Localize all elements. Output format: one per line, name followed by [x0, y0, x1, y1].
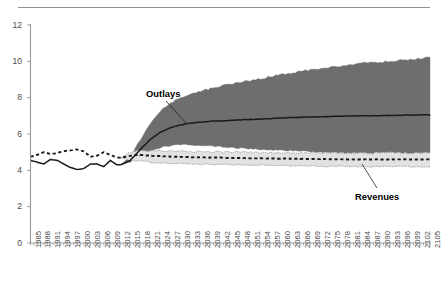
x-tick-label: 2078	[343, 231, 352, 248]
x-tick-label: 1991	[53, 231, 62, 248]
x-tick-label: 1997	[73, 231, 82, 248]
x-tick-label: 2087	[373, 231, 382, 248]
x-tick-label: 2033	[193, 231, 202, 248]
x-tick-label: 2066	[303, 231, 312, 248]
x-tick-label: 2018	[143, 231, 152, 248]
x-tick-label: 2057	[273, 231, 282, 248]
x-tick-label: 2048	[243, 231, 252, 248]
x-tick-label: 2000	[83, 231, 92, 248]
x-tick-label: 2045	[233, 231, 242, 248]
revenues-label-leader-line	[362, 164, 377, 188]
x-tick-label: 2084	[363, 231, 372, 248]
x-tick-label: 2039	[213, 231, 222, 248]
x-tick-label: 2027	[173, 231, 182, 248]
x-tick-label: 2069	[313, 231, 322, 248]
x-tick-label: 2030	[183, 231, 192, 248]
x-tick-label: 1985	[34, 231, 43, 248]
revenues-label: Revenues	[355, 191, 399, 202]
y-tick-label: 8	[4, 92, 22, 102]
y-tick-label: 0	[4, 238, 22, 248]
x-tick-label: 2081	[353, 231, 362, 248]
x-tick-label: 2102	[423, 231, 432, 248]
x-tick-label: 1988	[43, 231, 52, 248]
y-tick-label: 2	[4, 201, 22, 211]
x-tick-label: 2021	[153, 231, 162, 248]
y-tick-label: 10	[4, 56, 22, 66]
x-tick-label: 2063	[293, 231, 302, 248]
figure-container: 0246810121985198819911994199720002003200…	[0, 0, 441, 291]
x-tick-label: 2075	[333, 231, 342, 248]
x-tick-label: 2060	[283, 231, 292, 248]
x-tick-label: 2036	[203, 231, 212, 248]
x-tick-label: 2015	[133, 231, 142, 248]
x-tick-label: 2003	[93, 231, 102, 248]
x-tick-label: 2072	[323, 231, 332, 248]
x-tick-label: 2105	[433, 231, 441, 248]
outlays-uncertainty-band	[120, 57, 430, 164]
y-tick-label: 6	[4, 129, 22, 139]
x-tick-label: 2054	[263, 231, 272, 248]
x-tick-label: 1994	[63, 231, 72, 248]
x-tick-label: 2009	[113, 231, 122, 248]
y-tick-label: 12	[4, 20, 22, 30]
x-tick-label: 2012	[123, 231, 132, 248]
x-tick-label: 2096	[403, 231, 412, 248]
x-tick-label: 2024	[163, 231, 172, 248]
x-tick-label: 2006	[103, 231, 112, 248]
x-tick-label: 2093	[393, 231, 402, 248]
x-tick-label: 2051	[253, 231, 262, 248]
x-tick-label: 2042	[223, 231, 232, 248]
x-tick-label: 2090	[383, 231, 392, 248]
x-tick-label: 2099	[413, 231, 422, 248]
y-tick-label: 4	[4, 165, 22, 175]
outlays-label: Outlays	[146, 88, 180, 99]
